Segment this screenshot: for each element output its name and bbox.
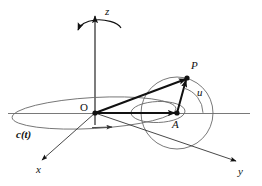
- y-axis-line: [95, 113, 236, 161]
- origin-label: O: [80, 102, 88, 113]
- particle-point-dot: [184, 75, 189, 80]
- particle-point-label: P: [191, 60, 198, 71]
- z-axis-label: z: [105, 6, 109, 17]
- rotation-arrow-about-z-axis: [78, 20, 121, 30]
- center-point-dot: [174, 110, 179, 115]
- x-axis-label: x: [36, 164, 41, 175]
- trajectory-curve-label: c(t): [16, 129, 31, 140]
- radius-vector-A-to-P: [177, 80, 186, 113]
- trajectory-direction-arrow: [92, 127, 112, 128]
- x-axis-line: [42, 113, 95, 160]
- position-vector-O-to-P: [95, 79, 186, 113]
- diagram-svg: [0, 0, 262, 186]
- angle-u-label: u: [197, 87, 203, 98]
- figure-canvas: z x y O A P u c(t): [0, 0, 262, 186]
- center-point-label: A: [172, 119, 179, 130]
- y-axis-label: y: [238, 166, 243, 177]
- origin-point-dot: [92, 110, 97, 115]
